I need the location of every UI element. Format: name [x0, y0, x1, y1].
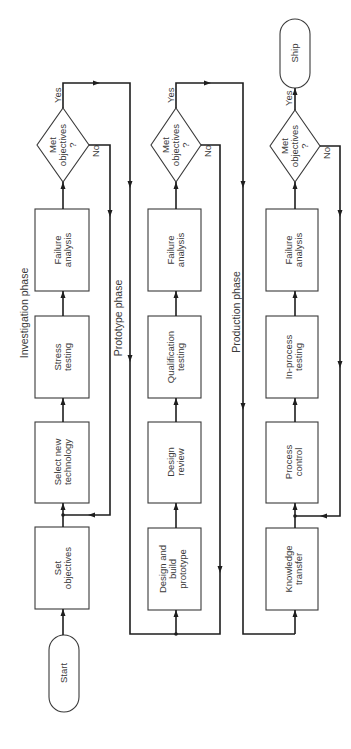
step-label: analysis	[62, 233, 73, 268]
flowchart: Start Set objectives Select new technolo…	[0, 0, 351, 749]
step-label: prototype	[177, 549, 188, 589]
no-label: No	[202, 145, 213, 157]
no-label: No	[321, 147, 332, 159]
decision-label: ?	[299, 143, 310, 148]
decision-label: ?	[67, 142, 78, 147]
step-label: analysis	[175, 233, 186, 268]
start-label: Start	[58, 663, 69, 683]
phase-label-investigation: Investigation phase	[18, 268, 30, 359]
phase-label-production: Production phase	[230, 271, 242, 353]
no-label: No	[90, 145, 101, 157]
phase-label-prototype: Prototype phase	[112, 280, 124, 357]
ship-label: Ship	[289, 43, 300, 62]
yes-label: Yes	[283, 90, 294, 106]
yes-label: Yes	[165, 87, 176, 103]
step-label: technology	[62, 439, 73, 485]
step-label: analysis	[293, 233, 304, 268]
decision-label: ?	[180, 142, 191, 147]
step-label: review	[175, 448, 186, 476]
step-label: transfer	[293, 553, 304, 585]
production-phase: Knowledge transfer Process control In-pr…	[230, 19, 343, 634]
yes-label: Yes	[52, 87, 63, 103]
step-label: objectives	[62, 547, 73, 589]
step-label: testing	[175, 343, 186, 371]
step-label: testing	[62, 343, 73, 371]
step-label: control	[293, 448, 304, 477]
step-label: testing	[293, 343, 304, 371]
